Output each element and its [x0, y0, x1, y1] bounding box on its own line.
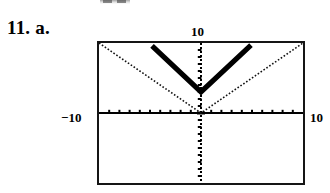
- x-min-label: −10: [61, 111, 81, 124]
- x-max-label: 10: [310, 111, 323, 124]
- problem-part: a.: [35, 17, 50, 38]
- clipped-text-fragment: [100, 0, 130, 4]
- problem-label: 11.a.: [7, 18, 50, 37]
- graphing-calculator-screen: [97, 41, 305, 185]
- y-max-label: 10: [191, 25, 204, 38]
- graph-plot-area: [99, 43, 303, 183]
- problem-number: 11.: [7, 17, 30, 38]
